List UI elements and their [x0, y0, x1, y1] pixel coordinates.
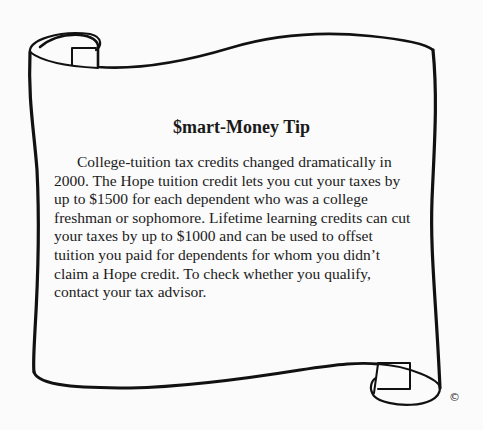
tip-body: College-tuition tax credits changed dram… [54, 153, 424, 302]
tip-line: contact your tax advisor. [54, 283, 424, 302]
tip-line: claim a Hope credit. To check whether yo… [54, 265, 424, 284]
tip-line: 2000. The Hope tuition credit lets you c… [54, 172, 424, 191]
tip-line: freshman or sophomore. Lifetime learning… [54, 209, 424, 228]
tip-line: tuition you paid for dependents for whom… [54, 246, 424, 265]
tip-line: College-tuition tax credits changed dram… [54, 153, 424, 172]
copyright-icon: © [449, 391, 460, 404]
tip-line: up to $1500 for each dependent who was a… [54, 190, 424, 209]
tip-title: $mart-Money Tip [0, 117, 483, 138]
tip-line: your taxes by up to $1000 and can be use… [54, 227, 424, 246]
